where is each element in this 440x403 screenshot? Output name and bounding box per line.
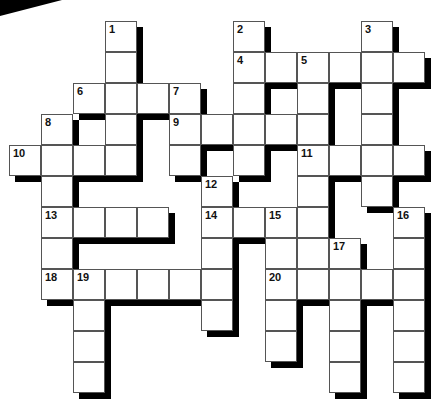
crossword-cell[interactable]: 13 bbox=[41, 207, 73, 238]
crossword-cell[interactable] bbox=[201, 269, 233, 300]
crossword-cell[interactable] bbox=[297, 269, 329, 300]
crossword-cell[interactable] bbox=[105, 145, 137, 176]
crossword-cell[interactable] bbox=[393, 52, 425, 83]
crossword-cell[interactable] bbox=[233, 83, 265, 114]
crossword-cell[interactable] bbox=[393, 300, 425, 331]
crossword-cell[interactable]: 4 bbox=[233, 52, 265, 83]
clue-number: 7 bbox=[173, 85, 179, 97]
crossword-cell[interactable]: 3 bbox=[361, 21, 393, 52]
crossword-cell[interactable] bbox=[265, 114, 297, 145]
clue-number: 1 bbox=[109, 23, 115, 35]
crossword-cell[interactable] bbox=[137, 207, 169, 238]
crossword-cell[interactable] bbox=[393, 362, 425, 393]
crossword-cell[interactable] bbox=[393, 331, 425, 362]
clue-number: 16 bbox=[397, 209, 409, 221]
clue-number: 15 bbox=[269, 209, 281, 221]
crossword-cell[interactable] bbox=[105, 114, 137, 145]
clue-number: 14 bbox=[205, 209, 217, 221]
crossword-cell[interactable] bbox=[297, 238, 329, 269]
clue-number: 11 bbox=[301, 147, 313, 159]
crossword-cell[interactable]: 10 bbox=[9, 145, 41, 176]
crossword-cell[interactable]: 5 bbox=[297, 52, 329, 83]
clue-number: 13 bbox=[45, 209, 57, 221]
crossword-cell[interactable] bbox=[297, 176, 329, 207]
crossword-cell[interactable] bbox=[169, 145, 201, 176]
crossword-cell[interactable]: 17 bbox=[329, 238, 361, 269]
crossword-cell[interactable]: 19 bbox=[73, 269, 105, 300]
crossword-cell[interactable] bbox=[73, 145, 105, 176]
crossword-cell[interactable]: 7 bbox=[169, 83, 201, 114]
clue-number: 18 bbox=[45, 271, 57, 283]
crossword-cell[interactable] bbox=[233, 114, 265, 145]
crossword-cell[interactable] bbox=[393, 269, 425, 300]
clue-number: 19 bbox=[77, 271, 89, 283]
crossword-cell[interactable] bbox=[105, 269, 137, 300]
crossword-cell[interactable] bbox=[297, 114, 329, 145]
crossword-cell[interactable] bbox=[73, 331, 105, 362]
crossword-cell[interactable] bbox=[297, 83, 329, 114]
crossword-cell[interactable] bbox=[361, 52, 393, 83]
crossword-cell[interactable] bbox=[265, 300, 297, 331]
clue-number: 9 bbox=[173, 116, 179, 128]
clue-number: 17 bbox=[333, 240, 345, 252]
crossword-cell[interactable] bbox=[105, 83, 137, 114]
crossword-cell[interactable] bbox=[201, 300, 233, 331]
crossword-cell[interactable]: 8 bbox=[41, 114, 73, 145]
crossword-cell[interactable]: 11 bbox=[297, 145, 329, 176]
crossword-cell[interactable] bbox=[41, 145, 73, 176]
crossword-cell[interactable] bbox=[361, 269, 393, 300]
crossword-cell[interactable] bbox=[297, 207, 329, 238]
crossword-cell[interactable] bbox=[137, 269, 169, 300]
crossword-cell[interactable] bbox=[265, 52, 297, 83]
crossword-cell[interactable]: 2 bbox=[233, 21, 265, 52]
clue-number: 12 bbox=[205, 178, 217, 190]
crossword-cell[interactable]: 15 bbox=[265, 207, 297, 238]
crossword-cell[interactable] bbox=[105, 207, 137, 238]
crossword-cell[interactable] bbox=[329, 269, 361, 300]
crossword-cell[interactable] bbox=[169, 269, 201, 300]
crossword-cell[interactable] bbox=[105, 52, 137, 83]
clue-number: 8 bbox=[45, 116, 51, 128]
crossword-cell[interactable] bbox=[393, 238, 425, 269]
crossword-cell[interactable] bbox=[329, 331, 361, 362]
crossword-cell[interactable] bbox=[41, 238, 73, 269]
crossword-cell[interactable] bbox=[73, 300, 105, 331]
crossword-cell[interactable] bbox=[73, 207, 105, 238]
crossword-cell[interactable] bbox=[329, 362, 361, 393]
crossword-cell[interactable] bbox=[361, 145, 393, 176]
crossword-cell[interactable]: 14 bbox=[201, 207, 233, 238]
crossword-cell[interactable] bbox=[201, 238, 233, 269]
crossword-cell[interactable] bbox=[73, 362, 105, 393]
crossword-cell[interactable] bbox=[361, 114, 393, 145]
clue-number: 10 bbox=[13, 147, 25, 159]
crossword-cell[interactable] bbox=[41, 176, 73, 207]
crossword-cell[interactable]: 16 bbox=[393, 207, 425, 238]
crossword-grid: 1234567891011121314151617181920 bbox=[0, 0, 440, 403]
crossword-cell[interactable] bbox=[329, 52, 361, 83]
crossword-cell[interactable]: 9 bbox=[169, 114, 201, 145]
crossword-cell[interactable] bbox=[329, 300, 361, 331]
clue-number: 3 bbox=[365, 23, 371, 35]
clue-number: 5 bbox=[301, 54, 307, 66]
crossword-cell[interactable] bbox=[361, 83, 393, 114]
crossword-cell[interactable]: 1 bbox=[105, 21, 137, 52]
crossword-cell[interactable]: 20 bbox=[265, 269, 297, 300]
crossword-cell[interactable] bbox=[393, 145, 425, 176]
crossword-cell[interactable]: 6 bbox=[73, 83, 105, 114]
crossword-cell[interactable] bbox=[201, 114, 233, 145]
crossword-cell[interactable]: 12 bbox=[201, 176, 233, 207]
crossword-cell[interactable] bbox=[329, 145, 361, 176]
crossword-cell[interactable] bbox=[233, 207, 265, 238]
clue-number: 20 bbox=[269, 271, 281, 283]
crossword-cell[interactable] bbox=[137, 83, 169, 114]
clue-number: 4 bbox=[237, 54, 243, 66]
crossword-cell[interactable] bbox=[233, 145, 265, 176]
crossword-cell[interactable] bbox=[265, 238, 297, 269]
crossword-cell[interactable]: 18 bbox=[41, 269, 73, 300]
crossword-cell[interactable] bbox=[265, 331, 297, 362]
clue-number: 2 bbox=[237, 23, 243, 35]
clue-number: 6 bbox=[77, 85, 83, 97]
crossword-cell[interactable] bbox=[361, 176, 393, 207]
